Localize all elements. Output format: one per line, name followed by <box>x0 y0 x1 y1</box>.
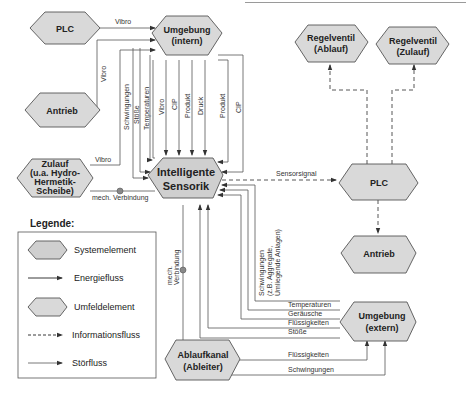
edge-label-produkt: Produkt <box>184 94 191 118</box>
edge-label-aggregate: (z.B. Aggregate, <box>266 246 274 296</box>
legend: Legende: Systemelement Energiefluss Umfe… <box>18 218 156 378</box>
legend-title: Legende: <box>30 218 74 229</box>
node-intelligente-sensorik[interactable]: Intelligente Sensorik <box>148 158 223 198</box>
edge-label-mech-1: mech. <box>166 266 173 285</box>
function-structure-diagram: Vibro Vibro Vibro mech. Verbindung Schwi… <box>0 0 466 394</box>
edge-label-cip: CIP <box>171 98 178 110</box>
label: Umgebung <box>164 25 211 35</box>
edge-label-geraeusche: Geräusche <box>288 310 322 317</box>
edge-label-schwingungen-ablauf: Schwingungen <box>288 366 334 374</box>
node-umgebung-extern[interactable]: Umgebung (extern) <box>340 302 416 341</box>
edge-label-temperaturen: Temperaturen <box>143 87 151 130</box>
edge-label-schwingungen: Schwingungen <box>123 84 131 130</box>
label: Regelventil <box>389 36 437 46</box>
label: (Ableiter) <box>183 362 223 372</box>
label: Intelligente <box>157 166 215 178</box>
edge-label-schwingungen-extern: Schwingungen <box>258 250 266 296</box>
label: (Zulauf) <box>397 47 430 57</box>
legend-item-energie: Energiefluss <box>74 273 124 283</box>
node-zulauf[interactable]: Zulauf (u.a. Hydro- Hermetik- Scheibe) <box>17 159 93 197</box>
mech-joint-icon-2 <box>180 267 186 273</box>
label: PLC <box>56 24 75 34</box>
label: Regelventil <box>307 33 355 43</box>
edge-label-fluessigkeiten-ablauf: Flüssigkeiten <box>288 351 329 359</box>
edge-label-vibro: Vibro <box>115 18 131 25</box>
label: (intern) <box>172 36 203 46</box>
edge-label-mech-2: Verbindung <box>173 249 181 285</box>
legend-item-system: Systemelement <box>74 245 137 255</box>
edge-label-mech: mech. Verbindung <box>92 194 149 202</box>
label: PLC <box>370 178 389 188</box>
edge-extern-flows: Schwingungen (z.B. Aggregate, Umliegende… <box>200 185 340 338</box>
edge-label-temperaturen-extern: Temperaturen <box>288 301 331 309</box>
label: Antrieb <box>46 106 78 116</box>
legend-item-stoer: Störfluss <box>72 358 108 368</box>
label: Ablaufkanal <box>177 350 228 360</box>
edge-plc-umgebung: Vibro <box>90 18 155 28</box>
environment-element-icon <box>28 298 67 316</box>
node-umgebung-intern[interactable]: Umgebung (intern) <box>152 16 222 55</box>
edge-label-anlagen: Umliegende Anlagen) <box>274 229 282 296</box>
label: (extern) <box>365 323 398 333</box>
node-plc-left[interactable]: PLC <box>30 12 100 44</box>
node-ablaufkanal[interactable]: Ablaufkanal (Ableiter) <box>165 340 240 380</box>
node-regelventil-zulauf[interactable]: Regelventil (Zulauf) <box>376 27 449 64</box>
edge-sensorsignal: Sensorsignal <box>222 170 336 180</box>
edge-label-vibro-vertical: Vibro <box>100 66 107 82</box>
edge-label-sensorsignal: Sensorsignal <box>276 170 317 178</box>
legend-item-umfeld: Umfeldelement <box>74 302 135 312</box>
edge-label-fluessigkeiten: Flüssigkeiten <box>288 319 329 327</box>
edge-label-produkt-2: Produkt <box>219 94 226 118</box>
edge-ablauf-mech: mech. Verbindung <box>166 205 186 340</box>
edge-zulauf-mech: mech. Verbindung <box>90 188 155 202</box>
label: Sensorik <box>163 180 210 192</box>
system-element-icon <box>28 241 67 259</box>
edge-plc-control <box>330 65 414 233</box>
edge-label-stoesse-extern: Stöße <box>288 328 307 335</box>
edge-label-vibro-intern: Vibro <box>158 99 165 115</box>
legend-item-information: Informationsfluss <box>72 330 141 340</box>
label: (Ablauf) <box>314 44 348 54</box>
node-plc-right[interactable]: PLC <box>339 164 418 200</box>
label: Umgebung <box>359 311 406 321</box>
label: Scheibe) <box>36 186 74 196</box>
edge-label-cip-2: CIP <box>235 101 242 113</box>
edge-label-vibro-zulauf: Vibro <box>95 156 111 163</box>
node-regelventil-ablauf[interactable]: Regelventil (Ablauf) <box>295 25 368 62</box>
node-antrieb-left[interactable]: Antrieb <box>25 93 100 127</box>
label: Antrieb <box>363 249 395 259</box>
edge-label-stoesse: Stöße <box>133 105 140 124</box>
edge-label-druck: Druck <box>197 96 204 115</box>
node-antrieb-right[interactable]: Antrieb <box>341 236 416 273</box>
edge-ablauf-extern: Flüssigkeiten Schwingungen <box>225 341 385 375</box>
